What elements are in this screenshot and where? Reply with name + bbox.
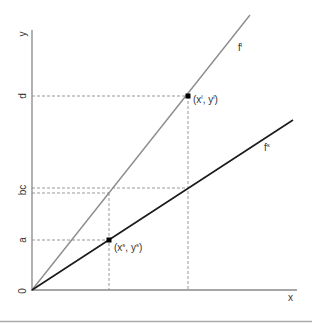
point-s-close: ): [139, 242, 142, 253]
y-axis-label: y: [17, 32, 28, 37]
curve-f-l-label: fl: [238, 42, 242, 53]
x-axis-label: x: [288, 292, 293, 303]
tick-d-label: d: [17, 93, 28, 99]
production-diagram: y x 0 d bc a fl fs (xl, yl) (xs, ys): [0, 0, 312, 323]
point-l-open: (x: [193, 94, 201, 105]
point-l-label: (xl, yl): [193, 94, 218, 105]
curve-f-s-sup: s: [267, 142, 270, 148]
point-s-marker: [107, 238, 112, 243]
point-l-mid: , y: [203, 94, 214, 105]
curve-f-l-sup: l: [241, 42, 242, 48]
curve-f-s-label: fs: [264, 142, 270, 153]
tick-bc-label: bc: [17, 185, 28, 196]
point-s-label: (xs, ys): [114, 242, 142, 253]
curve-f-s: [32, 120, 293, 290]
point-s-open: (x: [114, 242, 122, 253]
point-l-close: ): [215, 94, 218, 105]
origin-label: 0: [17, 288, 28, 294]
point-l-marker: [186, 94, 191, 99]
tick-a-label: a: [17, 237, 28, 243]
point-s-mid: , y: [125, 242, 136, 253]
